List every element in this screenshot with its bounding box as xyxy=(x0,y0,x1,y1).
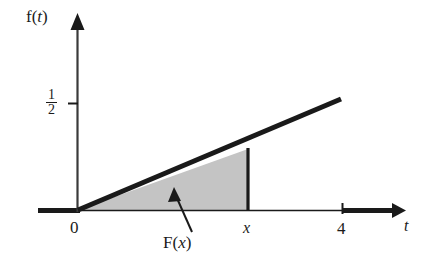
area-label-func: F( xyxy=(163,233,178,252)
x-tick-label-four: 4 xyxy=(337,220,346,237)
y-axis-label: f(t) xyxy=(26,8,48,25)
x-tick-label-zero: 0 xyxy=(70,219,79,236)
x-axis-label: t xyxy=(404,218,408,234)
y-axis-arrowhead xyxy=(71,13,85,30)
area-label-close: ) xyxy=(186,233,192,252)
plot-svg xyxy=(0,0,424,264)
area-label-var: x xyxy=(178,233,186,252)
figure-canvas: f(t) 1 2 0 x 4 t F(x) xyxy=(0,0,424,264)
y-tick-label-half: 1 2 xyxy=(46,88,57,118)
fraction-denominator: 2 xyxy=(46,103,57,117)
fraction-numerator: 1 xyxy=(46,88,57,103)
area-annotation-label: F(x) xyxy=(163,234,191,251)
x-tick-label-x: x xyxy=(243,220,250,236)
y-axis-label-func: f( xyxy=(26,7,37,26)
t-axis-arrowhead xyxy=(392,203,406,218)
y-axis-label-close: ) xyxy=(42,7,48,26)
